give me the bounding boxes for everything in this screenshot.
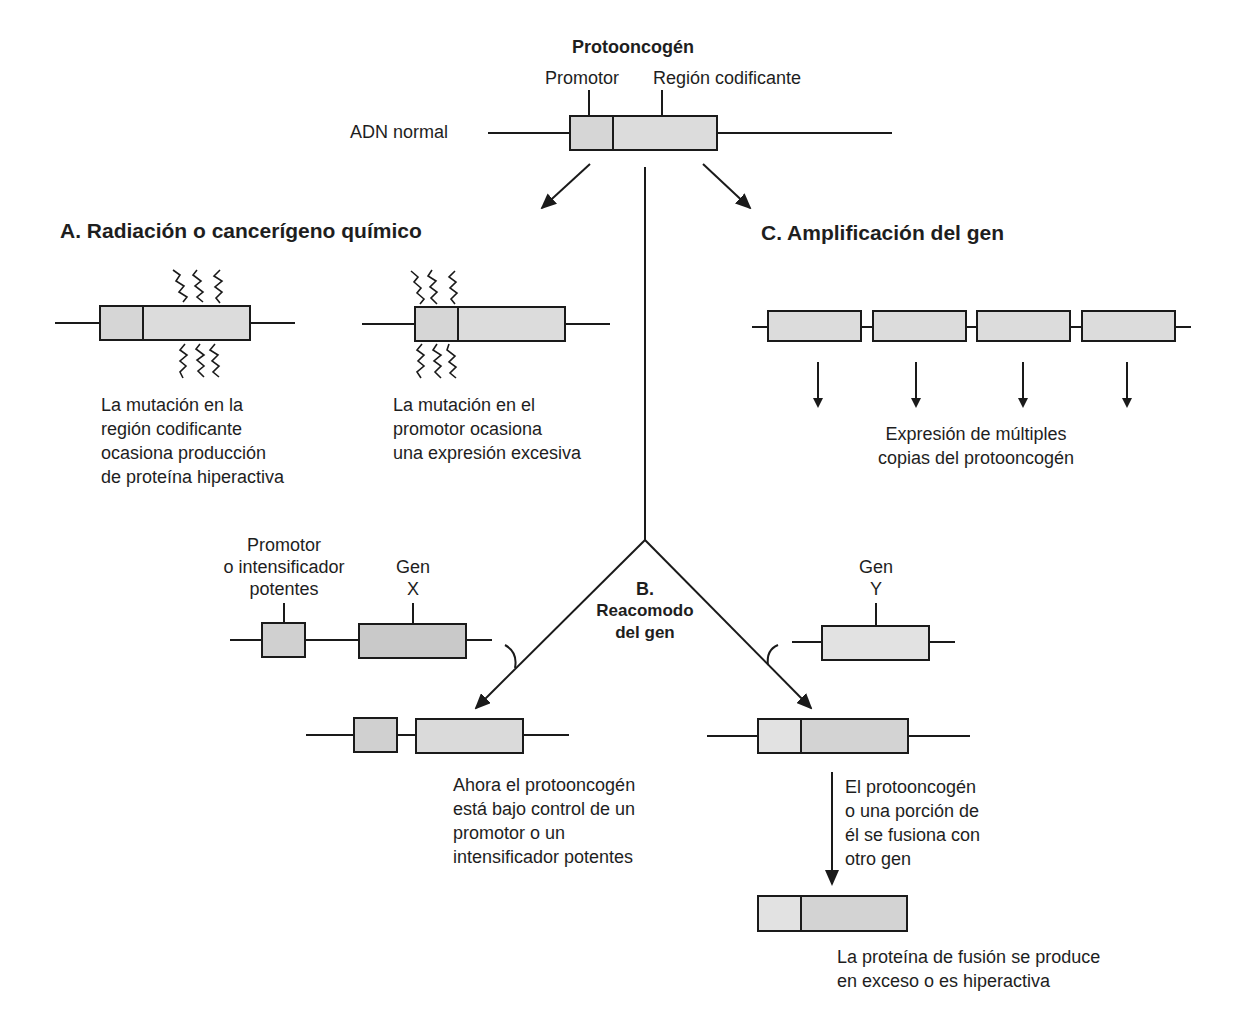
label-coding-region: Región codificante — [653, 66, 801, 90]
label-gene-y: Gen Y — [846, 556, 906, 600]
caption-line: copias del protooncogén — [826, 446, 1126, 470]
caption-line: ocasiona producción — [101, 441, 284, 465]
rearranged-promoter-diagram — [306, 718, 569, 753]
caption-line: Expresión de múltiples — [826, 422, 1126, 446]
label-line: potentes — [200, 578, 368, 600]
caption-line: o una porción de — [845, 799, 980, 823]
caption-line: región codificante — [101, 417, 284, 441]
caption-line: otro gen — [845, 847, 980, 871]
caption-line: La proteína de fusión se produce — [837, 945, 1100, 969]
caption-line: una expresión excesiva — [393, 441, 581, 465]
label-line: Y — [846, 578, 906, 600]
section-b-heading: B. Reacomodo del gen — [575, 578, 715, 644]
section-a-heading: A. Radiación o cancerígeno químico — [60, 218, 422, 244]
promoter-box — [570, 116, 613, 150]
section-b-letter: B. — [575, 578, 715, 600]
caption-line: en exceso o es hiperactiva — [837, 969, 1100, 993]
caption-amplification: Expresión de múltiples copias del protoo… — [826, 422, 1126, 470]
coding-region-box — [613, 116, 717, 150]
diagram-title: Protooncogén — [572, 35, 694, 59]
label-line: o intensificador — [200, 556, 368, 578]
caption-line: de proteína hiperactiva — [101, 465, 284, 489]
caption-line: La mutación en el — [393, 393, 581, 417]
label-promoter: Promotor — [545, 66, 619, 90]
caption-line: Ahora el protooncogén — [453, 773, 635, 797]
caption-fusion-protein: La proteína de fusión se produce en exce… — [837, 945, 1100, 993]
amplified-genes-diagram — [752, 311, 1191, 341]
caption-line: La mutación en la — [101, 393, 284, 417]
break-point-curve — [505, 645, 516, 668]
section-b-title-line: Reacomodo — [575, 600, 715, 622]
arrow-to-a — [542, 164, 590, 208]
arrow-to-c — [703, 164, 750, 208]
caption-line: promotor o un — [453, 821, 635, 845]
caption-coding-mutation: La mutación en la región codificante oca… — [101, 393, 284, 489]
label-strong-promoter: Promotor o intensificador potentes — [200, 534, 368, 600]
normal-dna-strand — [488, 90, 892, 150]
caption-line: El protooncogén — [845, 775, 980, 799]
mutation-coding-diagram — [55, 270, 295, 378]
strong-promoter-gene-x-diagram — [230, 603, 492, 658]
caption-strong-promoter-result: Ahora el protooncogén está bajo control … — [453, 773, 635, 869]
fusion-protein-diagram — [758, 896, 907, 931]
caption-line: está bajo control de un — [453, 797, 635, 821]
gene-y-diagram — [792, 603, 955, 660]
label-line: Gen — [383, 556, 443, 578]
caption-line: intensificador potentes — [453, 845, 635, 869]
caption-fusion-step: El protooncogén o una porción de él se f… — [845, 775, 980, 871]
break-point-curve — [768, 645, 778, 665]
label-line: Gen — [846, 556, 906, 578]
section-c-heading: C. Amplificación del gen — [761, 220, 1004, 246]
label-normal-dna: ADN normal — [350, 120, 448, 144]
caption-promoter-mutation: La mutación en el promotor ocasiona una … — [393, 393, 581, 465]
fusion-gene-diagram — [707, 719, 970, 753]
caption-line: promotor ocasiona — [393, 417, 581, 441]
caption-line: él se fusiona con — [845, 823, 980, 847]
label-line: X — [383, 578, 443, 600]
mutation-promoter-diagram — [362, 270, 610, 378]
label-gene-x: Gen X — [383, 556, 443, 600]
label-line: Promotor — [200, 534, 368, 556]
section-b-title-line: del gen — [575, 622, 715, 644]
